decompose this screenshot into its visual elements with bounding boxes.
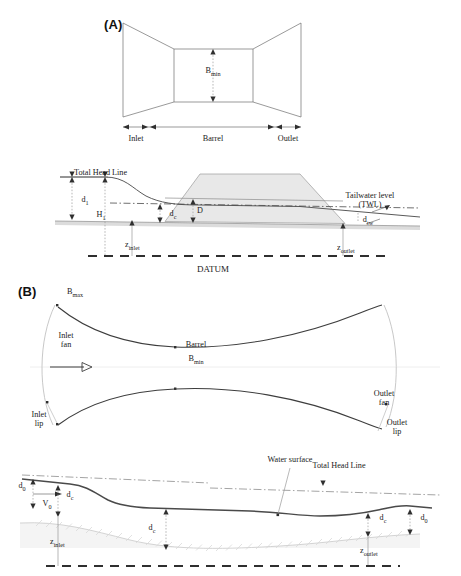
dc-left-dimension-b <box>55 485 60 517</box>
tailwater-label-line1: Tailwater level <box>346 191 395 200</box>
panel-a-profile-view <box>0 160 461 275</box>
do-right-dimension-b <box>407 509 412 535</box>
barrel-wall-upper <box>58 305 382 347</box>
wing-bottom-right <box>253 102 301 117</box>
tick-inlet-fan <box>46 401 48 403</box>
bmax-label: Bmax <box>67 287 83 299</box>
water-surface-profile-b <box>22 479 432 516</box>
d1-label: d1 <box>81 195 88 207</box>
d1-dimension <box>69 177 74 220</box>
total-head-line-label-a: Total Head Line <box>74 168 127 177</box>
tick-inlet-lip <box>56 423 58 425</box>
dc-mid-label-b: dc <box>149 523 156 535</box>
outlet-fan-label-line2: fan <box>379 398 389 407</box>
inlet-fan-label-line2: fan <box>61 340 71 349</box>
bmin-label-b: Bmin <box>188 354 203 366</box>
outlet-lip-label-line2: lip <box>393 427 402 436</box>
total-head-line-b-right <box>210 488 440 495</box>
station-label-inlet: Inlet <box>128 134 143 143</box>
wing-top-left <box>123 23 174 49</box>
vo-label: V0 <box>42 499 51 511</box>
tailwater-label-line2: (TWL) <box>358 200 381 209</box>
tick-bmax <box>56 304 58 306</box>
figure-canvas: (A) <box>0 0 461 576</box>
panel-a-plan-view <box>0 5 461 155</box>
water-surface-label: Water surface <box>267 455 312 464</box>
outlet-fan-label-line1: Outlet <box>374 389 394 398</box>
dc-dimension-a <box>157 204 162 223</box>
dc-right-dimension-b <box>365 513 370 537</box>
z-inlet-label-a: zinlet <box>125 240 140 252</box>
total-head-line-label-b: Total Head Line <box>312 461 365 470</box>
dc-left-label-b: dc <box>67 490 74 502</box>
total-head-tick-b <box>320 481 325 487</box>
dc-label-a: dc <box>170 209 177 221</box>
barrel-label-b: Barrel <box>186 340 206 349</box>
dtw-label: dtw <box>363 215 373 227</box>
outlet-fan-arc <box>384 305 396 427</box>
inlet-fan-arc <box>42 305 55 425</box>
inlet-lip-label-line1: Inlet <box>31 410 46 419</box>
inlet-lip-label-line2: lip <box>35 419 44 428</box>
do-left-label: d0 <box>18 481 25 493</box>
panel-b-profile-view <box>0 448 461 576</box>
station-label-outlet: Outlet <box>278 134 298 143</box>
wing-bottom-left <box>123 102 174 117</box>
do-right-label-b: d0 <box>420 513 427 525</box>
tick-barrel-upper <box>174 346 176 348</box>
station-dimension-line <box>123 125 301 130</box>
datum-label-a: DATUM <box>197 264 229 274</box>
bmin-label-plan: Bmin <box>205 66 220 78</box>
inlet-fan-label-line1: Inlet <box>58 331 73 340</box>
z-inlet-label-b: zinlet <box>50 537 65 549</box>
barrel-height-label: D <box>197 206 203 215</box>
station-label-barrel: Barrel <box>203 134 223 143</box>
tick-bmin <box>174 388 176 390</box>
wing-top-right <box>253 23 301 49</box>
barrel-wall-lower <box>58 389 382 429</box>
z-outlet-label-a: zoutlet <box>337 243 355 255</box>
z-outlet-label-b: zoutlet <box>360 546 378 558</box>
dc-mid-dimension-b <box>163 509 168 550</box>
dc-right-label-b: dc <box>380 513 387 525</box>
water-surface-leader <box>277 468 291 516</box>
outlet-lip-label-line1: Outlet <box>387 418 407 427</box>
h1-label: H1 <box>96 210 105 222</box>
